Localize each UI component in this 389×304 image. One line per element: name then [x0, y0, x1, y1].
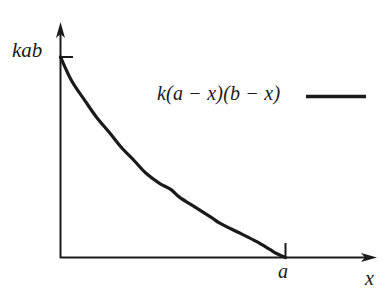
legend-entry-label: k(a − x)(b − x) [157, 83, 280, 103]
y-axis-tick-label: kab [12, 40, 42, 61]
x-axis-label: x [365, 268, 374, 288]
x-axis-tick-label-a: a [278, 261, 288, 281]
plot-canvas [0, 0, 389, 304]
figure-container: kab a x k(a − x)(b − x) [0, 0, 389, 304]
